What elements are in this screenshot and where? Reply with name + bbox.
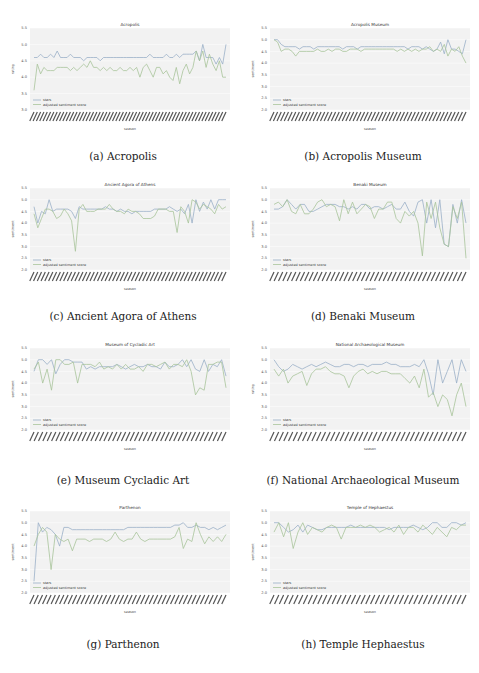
- x-tick-label: [130, 432, 135, 442]
- figure-caption: (b) Acropolis Museum: [248, 150, 478, 162]
- y-tick-label: 4.5: [21, 59, 27, 63]
- x-tick-label: [448, 272, 453, 282]
- x-tick-label: [72, 595, 77, 605]
- legend-label: stars: [283, 258, 292, 262]
- x-tick-label: [269, 595, 274, 605]
- legend-label: stars: [283, 418, 292, 422]
- y-tick-label: 5.0: [21, 198, 27, 202]
- x-tick-label: [136, 595, 141, 605]
- y-tick-label: 2.0: [261, 268, 267, 272]
- x-tick-label: [217, 432, 222, 442]
- x-tick-label: [76, 595, 81, 605]
- line-chart: National Archaeological Museum2.02.53.03…: [248, 340, 474, 468]
- x-tick-label: [106, 595, 111, 605]
- x-tick-label: [208, 432, 213, 442]
- x-tick-label: [438, 432, 443, 442]
- x-tick-label: [221, 432, 226, 442]
- x-tick-label: [269, 272, 274, 282]
- x-tick-label: [419, 432, 424, 442]
- y-tick-label: 5.5: [261, 186, 267, 190]
- x-tick-label: [132, 595, 137, 605]
- y-tick-label: 4.0: [261, 61, 267, 65]
- figure-panel-b: Acropolis Museum2.02.53.03.54.04.55.05.5…: [248, 20, 478, 166]
- x-tick-label: [134, 432, 139, 442]
- x-tick-label: [461, 432, 466, 442]
- x-tick-label: [97, 595, 102, 605]
- x-tick-label: [457, 272, 462, 282]
- x-tick-label: [384, 595, 389, 605]
- x-tick-label: [204, 595, 209, 605]
- x-tick-label: [341, 595, 346, 605]
- y-tick-label: 3.0: [261, 85, 267, 89]
- x-axis-label: season: [124, 127, 136, 131]
- x-tick-label: [34, 432, 39, 442]
- y-tick-label: 3.5: [261, 556, 267, 560]
- x-tick-label: [157, 595, 162, 605]
- y-tick-label: 3.0: [261, 568, 267, 572]
- x-tick-label: [102, 595, 107, 605]
- y-tick-label: 2.0: [261, 591, 267, 595]
- x-tick-label: [51, 595, 56, 605]
- figure-caption: (d) Benaki Museum: [248, 310, 478, 322]
- line-chart: Ancient Agora of Athens2.02.53.03.54.04.…: [8, 180, 234, 304]
- x-tick-label: [138, 432, 143, 442]
- x-tick-label: [108, 432, 113, 442]
- x-tick-label: [55, 432, 60, 442]
- x-tick-label: [391, 272, 396, 282]
- y-axis-label: sentiment: [251, 543, 255, 561]
- x-tick-label: [165, 432, 170, 442]
- line-chart: Temple of Hephaestus2.02.53.03.54.04.55.…: [248, 503, 474, 632]
- y-tick-label: 2.0: [21, 591, 27, 595]
- x-tick-label: [213, 432, 218, 442]
- x-tick-label: [279, 432, 284, 442]
- x-tick-label: [170, 595, 175, 605]
- figure-caption: (f) National Archaeological Museum: [248, 474, 478, 486]
- y-tick-label: 4.0: [21, 544, 27, 548]
- x-tick-label: [69, 432, 74, 442]
- x-tick-label: [191, 595, 196, 605]
- x-tick-label: [370, 272, 375, 282]
- x-tick-label: [121, 432, 126, 442]
- y-tick-label: 4.5: [21, 210, 27, 214]
- plot-area: [30, 188, 230, 270]
- x-tick-label: [196, 595, 201, 605]
- x-tick-label: [288, 595, 293, 605]
- x-tick-label: [326, 272, 331, 282]
- x-tick-label: [199, 432, 204, 442]
- x-tick-label: [38, 595, 43, 605]
- x-tick-label: [51, 432, 56, 442]
- y-tick-label: 5.0: [261, 198, 267, 202]
- x-tick-label: [389, 595, 394, 605]
- x-tick-label: [311, 432, 316, 442]
- x-tick-label: [82, 432, 87, 442]
- legend-label: stars: [283, 98, 292, 102]
- x-tick-label: [442, 595, 447, 605]
- x-tick-label: [284, 595, 289, 605]
- x-tick-label: [335, 432, 340, 442]
- plot-area: [30, 511, 230, 593]
- y-axis-label: sentiment: [251, 220, 255, 238]
- x-tick-label: [365, 595, 370, 605]
- x-tick-label: [405, 272, 410, 282]
- figure-panel-d: Benaki Museum2.02.53.03.54.04.55.05.5sen…: [248, 180, 478, 326]
- line-chart: Benaki Museum2.02.53.03.54.04.55.05.5sen…: [248, 180, 474, 304]
- legend-label: adjusted sentiment score: [283, 586, 326, 590]
- x-tick-label: [370, 595, 375, 605]
- y-axis-label: rating: [251, 384, 255, 394]
- x-tick-label: [123, 595, 128, 605]
- line-chart: Acropolis3.03.54.04.55.05.5ratingseasons…: [8, 20, 234, 144]
- x-tick-label: [86, 432, 91, 442]
- x-tick-label: [191, 432, 196, 442]
- x-tick-label: [47, 432, 52, 442]
- x-tick-label: [300, 272, 305, 282]
- x-tick-label: [322, 595, 327, 605]
- x-tick-label: [115, 595, 120, 605]
- x-axis-label: season: [364, 127, 376, 131]
- figure-caption: (g) Parthenon: [8, 638, 238, 650]
- x-tick-label: [444, 272, 449, 282]
- x-tick-label: [368, 432, 373, 442]
- x-tick-label: [297, 432, 302, 442]
- x-tick-label: [335, 272, 340, 282]
- y-tick-label: 5.5: [261, 346, 267, 350]
- x-tick-label: [428, 432, 433, 442]
